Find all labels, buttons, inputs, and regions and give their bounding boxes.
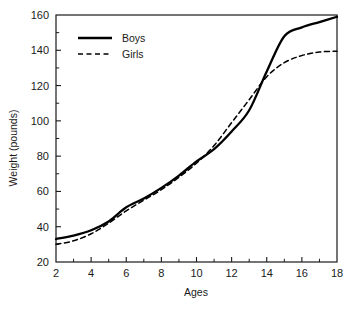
- x-tick-label-6: 6: [123, 267, 129, 279]
- x-tick-label-2: 2: [53, 267, 59, 279]
- y-tick-label-160: 160: [31, 9, 49, 21]
- x-axis-title: Ages: [184, 286, 208, 298]
- x-tick-label-4: 4: [88, 267, 94, 279]
- y-tick-label-120: 120: [31, 80, 49, 92]
- y-tick-label-60: 60: [37, 185, 49, 197]
- chart-background: [0, 0, 353, 309]
- x-tick-label-14: 14: [261, 267, 273, 279]
- y-tick-label-140: 140: [31, 44, 49, 56]
- y-tick-label-80: 80: [37, 150, 49, 162]
- y-tick-label-100: 100: [31, 115, 49, 127]
- x-tick-label-8: 8: [158, 267, 164, 279]
- y-tick-label-40: 40: [37, 221, 49, 233]
- y-tick-label-20: 20: [37, 256, 49, 268]
- x-tick-label-18: 18: [331, 267, 343, 279]
- chart-canvas: 24681012141618 20406080100120140160 Ages…: [0, 0, 353, 309]
- x-tick-label-16: 16: [296, 267, 308, 279]
- y-axis-title: Weight (pounds): [7, 110, 19, 187]
- legend-label-boys: Boys: [122, 32, 145, 44]
- x-tick-label-12: 12: [226, 267, 238, 279]
- legend-label-girls: Girls: [122, 48, 144, 60]
- x-tick-label-10: 10: [190, 267, 202, 279]
- weight-by-age-chart: 24681012141618 20406080100120140160 Ages…: [0, 0, 353, 309]
